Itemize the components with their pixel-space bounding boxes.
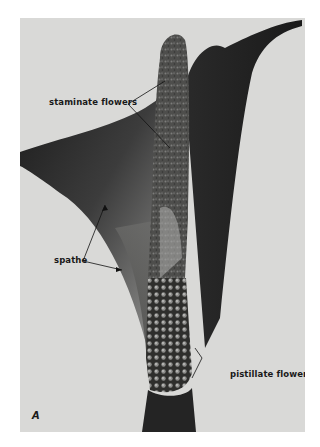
label-spathe: spathe bbox=[54, 255, 87, 265]
spadix-lower bbox=[146, 278, 192, 392]
stalk bbox=[142, 388, 196, 432]
label-staminate-flowers: staminate flowers bbox=[49, 97, 137, 107]
panel-letter: A bbox=[32, 410, 40, 421]
specimen-photograph: staminate flowers spathe pistillate flow… bbox=[20, 18, 305, 432]
label-pistillate-flowers: pistillate flowers bbox=[230, 369, 305, 379]
back-spathe bbox=[185, 20, 302, 348]
